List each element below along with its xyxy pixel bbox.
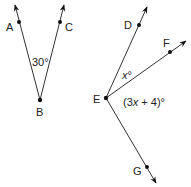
point-g xyxy=(145,165,149,169)
point-b xyxy=(38,98,42,102)
ray-ba xyxy=(15,5,40,100)
label-b: B xyxy=(36,106,43,118)
label-c: C xyxy=(65,21,73,33)
label-d: D xyxy=(124,19,132,31)
label-f: F xyxy=(163,37,170,49)
angle-feg-measure: (3x + 4)° xyxy=(123,96,165,108)
label-g: G xyxy=(133,165,142,177)
label-e: E xyxy=(93,93,100,105)
point-e xyxy=(104,96,108,100)
angle-feg-suffix: + 4)° xyxy=(138,96,165,108)
angle-abc-measure: 30° xyxy=(32,56,49,68)
angle-def-measure: x° xyxy=(121,69,132,81)
angle-abc-figure: A C B 30° xyxy=(6,5,73,118)
angle-feg-prefix: (3 xyxy=(123,96,133,108)
angle-def-feg-figure: D F E G x° (3x + 4)° xyxy=(93,7,186,183)
point-a xyxy=(17,20,21,24)
label-a: A xyxy=(6,21,14,33)
ray-ef xyxy=(106,41,186,98)
point-d xyxy=(137,23,141,27)
geometry-diagram: A C B 30° D F E G x° (3x + 4)° xyxy=(0,0,191,187)
point-c xyxy=(58,20,62,24)
angle-def-degree: ° xyxy=(128,69,132,81)
ray-eg xyxy=(106,98,156,183)
ray-bc xyxy=(40,5,64,100)
point-f xyxy=(168,50,172,54)
